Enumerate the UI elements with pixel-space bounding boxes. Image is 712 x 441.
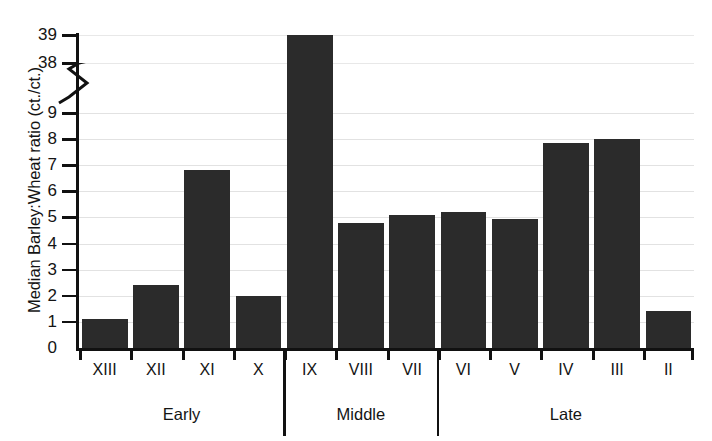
y-axis-tick-label: 39: [11, 26, 57, 43]
x-axis-tick: [182, 351, 185, 360]
y-axis-tick: [62, 243, 76, 246]
axis-break-icon: [57, 63, 97, 111]
x-axis-category-label: V: [489, 361, 540, 379]
bar: [338, 223, 384, 348]
x-axis-category-label: X: [233, 361, 284, 379]
x-axis-tick: [691, 351, 694, 360]
y-axis-tick-label: 6: [11, 182, 57, 199]
x-axis-category-label: XII: [130, 361, 181, 379]
x-axis-tick: [489, 351, 492, 360]
y-axis-tick: [62, 269, 76, 272]
y-axis-tick: [62, 321, 76, 324]
x-axis-category-label: VIII: [335, 361, 386, 379]
bar: [184, 170, 230, 348]
y-axis-tick: [62, 138, 76, 141]
x-axis-tick: [233, 351, 236, 360]
y-axis-tick: [62, 62, 76, 65]
y-axis-tick-label: 1: [11, 313, 57, 330]
y-axis-tick: [62, 216, 76, 219]
x-axis-line: [76, 348, 694, 351]
bar: [646, 311, 692, 348]
x-axis-tick: [540, 351, 543, 360]
y-axis-tick-label: 9: [11, 104, 57, 121]
x-axis-category-label: IX: [284, 361, 335, 379]
bar-chart-figure: Median Barley:Wheat ratio (ct./ct.) 3938…: [0, 0, 712, 441]
y-axis-tick: [62, 295, 76, 298]
x-axis-tick: [335, 351, 338, 360]
y-axis-tick-label: 0: [11, 339, 57, 356]
x-axis-tick: [79, 351, 82, 360]
y-axis-tick: [62, 164, 76, 167]
x-axis-category-label: XIII: [79, 361, 130, 379]
y-axis-tick-label: 7: [11, 156, 57, 173]
y-axis-tick-label: 8: [11, 130, 57, 147]
group-label: Early: [79, 405, 284, 424]
y-axis-tick-label: 3: [11, 261, 57, 278]
bar: [492, 219, 538, 348]
group-label: Middle: [284, 405, 438, 424]
x-axis-category-label: VII: [387, 361, 438, 379]
bar: [594, 139, 640, 348]
x-axis-category-label: IV: [540, 361, 591, 379]
y-axis-tick-label: 4: [11, 235, 57, 252]
x-axis-category-label: II: [643, 361, 694, 379]
y-axis-tick-label: 2: [11, 287, 57, 304]
y-axis-tick-label: 5: [11, 208, 57, 225]
bar: [236, 296, 282, 348]
bar: [287, 35, 333, 348]
x-axis-category-label: III: [592, 361, 643, 379]
group-label: Late: [438, 405, 694, 424]
bar: [441, 212, 487, 348]
x-axis-category-label: XI: [182, 361, 233, 379]
x-axis-tick: [387, 351, 390, 360]
x-axis-tick: [592, 351, 595, 360]
y-axis-tick: [62, 190, 76, 193]
bar: [133, 285, 179, 348]
y-axis-tick-label: 38: [11, 54, 57, 71]
bar: [389, 215, 435, 348]
x-axis-tick: [643, 351, 646, 360]
x-axis-tick: [130, 351, 133, 360]
y-axis-tick: [62, 112, 76, 115]
y-axis-tick: [62, 34, 76, 37]
bar: [82, 319, 128, 348]
x-axis-category-label: VI: [438, 361, 489, 379]
bar: [543, 143, 589, 348]
